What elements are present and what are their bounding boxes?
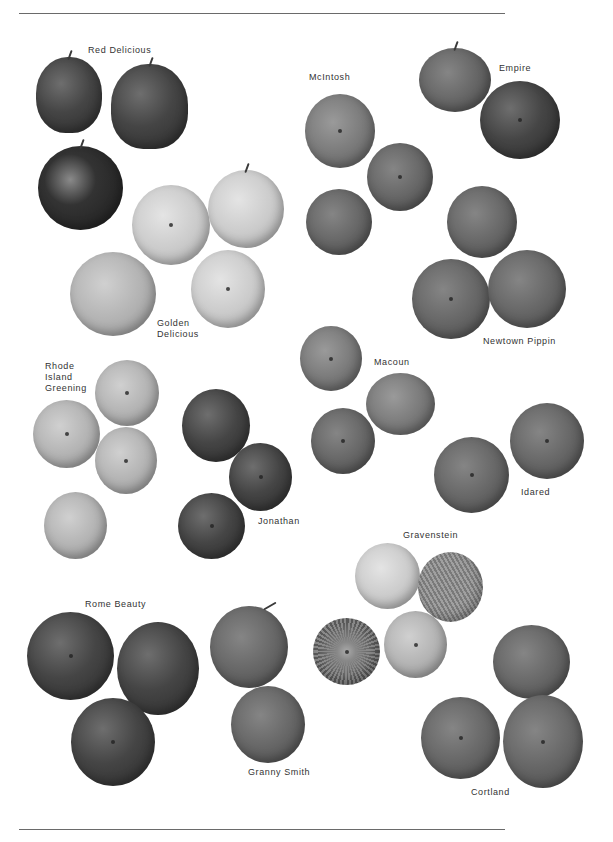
apple-gravenstein-3 <box>313 618 380 685</box>
apple-rome-beauty-3 <box>71 698 155 786</box>
label-rome-beauty: Rome Beauty <box>85 599 146 610</box>
top-rule <box>19 13 505 14</box>
apple-mcintosh-3 <box>306 189 372 255</box>
apple-gravenstein-2 <box>418 552 483 622</box>
apple-golden-delicious-2 <box>208 170 284 248</box>
label-gravenstein: Gravenstein <box>403 530 458 541</box>
apple-macoun-3 <box>311 408 375 474</box>
label-red-delicious: Red Delicious <box>88 45 151 56</box>
apple-gravenstein-4 <box>384 611 447 678</box>
label-idared: Idared <box>521 487 550 498</box>
apple-idared-1 <box>434 437 509 513</box>
apple-mcintosh-2 <box>367 143 433 211</box>
apple-red-delicious-1 <box>36 57 102 133</box>
apple-rhode-island-greening-4 <box>44 492 107 559</box>
apple-granny-smith-2 <box>231 686 305 763</box>
apple-newtown-pippin-3 <box>488 250 566 328</box>
apple-jonathan-3 <box>178 493 245 559</box>
apple-cortland-1 <box>493 625 570 699</box>
label-jonathan: Jonathan <box>258 516 300 527</box>
apple-macoun-2 <box>366 373 435 435</box>
apple-red-delicious-3 <box>38 146 123 230</box>
apple-cortland-2 <box>421 697 500 779</box>
apple-newtown-pippin-1 <box>447 186 517 258</box>
apple-golden-delicious-4 <box>191 250 265 328</box>
apple-cortland-3 <box>503 695 583 788</box>
apple-golden-delicious-1 <box>132 185 210 265</box>
apple-rome-beauty-1 <box>27 612 114 700</box>
apple-macoun-1 <box>300 326 362 391</box>
apple-golden-delicious-3 <box>70 252 156 336</box>
label-rhode-island-greening: Rhode Island Greening <box>45 361 87 394</box>
apple-empire-2 <box>480 81 560 159</box>
bottom-rule <box>19 829 505 830</box>
apple-rhode-island-greening-3 <box>95 427 157 494</box>
label-mcintosh: McIntosh <box>309 72 350 83</box>
label-granny-smith: Granny Smith <box>248 767 310 778</box>
apple-rhode-island-greening-1 <box>95 360 159 426</box>
apple-red-delicious-2 <box>111 64 188 149</box>
label-empire: Empire <box>499 63 531 74</box>
apple-jonathan-2 <box>229 443 292 511</box>
apple-rhode-island-greening-2 <box>33 400 100 468</box>
label-newtown-pippin: Newtown Pippin <box>483 336 556 347</box>
apple-gravenstein-1 <box>355 543 420 609</box>
apple-empire-1 <box>419 48 491 112</box>
apple-mcintosh-1 <box>305 94 375 168</box>
label-macoun: Macoun <box>374 357 410 368</box>
apple-newtown-pippin-2 <box>412 259 490 339</box>
apple-granny-smith-1 <box>210 606 288 688</box>
label-golden-delicious: Golden Delicious <box>157 318 199 340</box>
apple-idared-2 <box>510 403 584 479</box>
label-cortland: Cortland <box>471 787 510 798</box>
